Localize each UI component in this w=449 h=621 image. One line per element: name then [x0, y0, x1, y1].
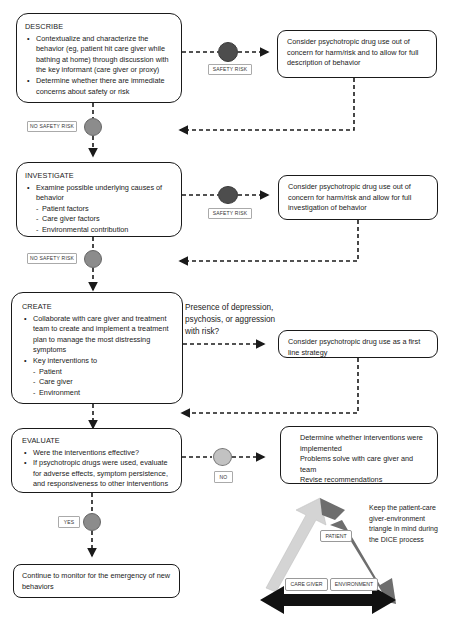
safety-risk-label: SAFETY RISK [208, 208, 252, 219]
create-sub-2: Care giver [22, 377, 172, 388]
describe-side-box: Consider psychotropic drug use out of co… [277, 30, 437, 78]
no-safety-risk-node [84, 250, 102, 268]
evaluate-box: EVALUATE Were the interventions effectiv… [11, 428, 182, 493]
investigate-side-box: Consider psychotropic drug use out of co… [278, 175, 438, 220]
describe-bullet-1: Contextualize and characterize the behav… [25, 34, 173, 76]
triangle-note: Keep the patient-care giver-environment … [369, 503, 447, 545]
no-safety-risk-label: NO SAFETY RISK [27, 121, 77, 132]
create-title: CREATE [22, 302, 172, 313]
yes-node [83, 513, 101, 531]
create-question: Presence of depression, psychosis, or ag… [185, 302, 285, 338]
monitor-box: Continue to monitor for the emergency of… [13, 564, 180, 598]
investigate-box: INVESTIGATE Examine possible underlying … [16, 162, 182, 237]
evaluate-side-bullet-3: Revise recommendations [290, 475, 428, 486]
investigate-sub-2: Care giver factors [25, 214, 173, 225]
create-box: CREATE Collaborate with care giver and t… [11, 292, 183, 404]
investigate-sub-3: Environmental contribution [25, 225, 173, 236]
safety-risk-node [218, 186, 238, 204]
describe-box: DESCRIBE Contextualize and characterize … [16, 13, 182, 103]
investigate-sub-1: Patient factors [25, 204, 173, 215]
environment-label: ENVIRONMENT [330, 578, 378, 591]
create-side-box: Consider psychotropic drug use as a firs… [278, 330, 438, 358]
no-label: NO [214, 471, 233, 483]
safety-risk-node [218, 42, 238, 62]
create-bullet-1: Collaborate with care giver and treatmen… [22, 314, 172, 356]
describe-title: DESCRIBE [25, 22, 173, 33]
evaluate-bullet-2: If psychotropic drugs were used, evaluat… [22, 458, 171, 490]
investigate-title: INVESTIGATE [25, 171, 173, 182]
evaluate-side-bullet-1: Determine whether interventions were imp… [290, 433, 428, 454]
no-node [213, 448, 232, 466]
patient-label: PATIENT [320, 530, 352, 542]
create-bullet-2: Key interventions to [22, 356, 172, 367]
create-sub-1: Patient [22, 367, 172, 378]
create-sub-3: Environment [22, 388, 172, 399]
safety-risk-label: SAFETY RISK [208, 64, 252, 75]
evaluate-side-bullet-2: Problems solve with care giver and team [290, 454, 428, 475]
describe-bullet-2: Determine whether there are immediate co… [25, 76, 173, 97]
evaluate-title: EVALUATE [22, 436, 171, 447]
no-safety-risk-label: NO SAFETY RISK [27, 253, 77, 264]
yes-label: YES [58, 516, 80, 528]
care-giver-label: CARE GIVER [285, 578, 328, 591]
no-safety-risk-node [84, 118, 102, 136]
evaluate-side-box: Determine whether interventions were imp… [280, 426, 438, 484]
evaluate-bullet-1: Were the interventions effective? [22, 448, 171, 459]
investigate-bullet-1: Examine possible underlying causes of be… [25, 183, 173, 204]
